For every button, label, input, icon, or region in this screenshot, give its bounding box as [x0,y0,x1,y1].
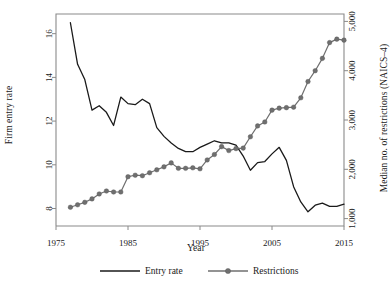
data-point-restrictions [147,170,152,175]
y-axis-right-tick-label: 2,000 [347,159,357,180]
data-point-restrictions [97,192,102,197]
data-point-restrictions [126,174,131,179]
line-restrictions [70,39,344,207]
y-axis-right-tick-label: 3,000 [347,109,357,130]
series-entry-rate [70,23,344,212]
legend-marker-restrictions [225,268,230,273]
data-point-restrictions [198,167,203,172]
data-point-restrictions [255,124,260,129]
data-point-restrictions [162,165,167,170]
data-point-restrictions [205,158,210,163]
data-point-restrictions [140,173,145,178]
legend-label-restrictions: Restrictions [253,266,299,276]
data-point-restrictions [227,148,232,153]
y-axis-right-tick-label: 5,000 [347,11,357,32]
data-point-restrictions [83,200,88,205]
x-axis-tick-label: 2005 [263,238,282,248]
x-axis-tick-label: 1975 [47,238,66,248]
y-axis-left-tick-label: 10 [44,160,54,170]
data-point-restrictions [241,146,246,151]
data-point-restrictions [313,68,318,73]
data-point-restrictions [327,40,332,45]
x-axis-tick-label: 1985 [119,238,138,248]
y-axis-left-tick-label: 8 [44,206,54,211]
data-point-restrictions [306,79,311,84]
data-point-restrictions [291,105,296,110]
data-point-restrictions [248,134,253,139]
data-point-restrictions [277,106,282,111]
data-point-restrictions [68,205,73,210]
data-point-restrictions [342,38,347,43]
plot-canvas: 810121416 1,0002,0003,0004,0005,000 1975… [0,0,392,286]
y-axis-left-tick-label: 16 [44,29,54,39]
data-point-restrictions [133,173,138,178]
x-axis-ticks: 19751985199520052015 [47,226,354,248]
data-point-restrictions [176,166,181,171]
chart-figure: Firm entry rate Median no. of restrictio… [0,0,392,286]
data-point-restrictions [169,161,174,166]
data-point-restrictions [320,56,325,61]
y-axis-right-tick-label: 1,000 [347,208,357,229]
series-restrictions [68,37,346,210]
data-point-restrictions [234,146,239,151]
chart-legend: Entry rateRestrictions [100,266,299,276]
x-axis-tick-label: 2015 [335,238,354,248]
data-point-restrictions [183,166,188,171]
data-point-restrictions [119,190,124,195]
data-point-restrictions [75,203,80,208]
data-point-restrictions [90,197,95,202]
line-entry-rate [70,23,344,212]
y-axis-left-tick-label: 12 [44,117,54,126]
legend-label-entry-rate: Entry rate [145,266,183,276]
data-point-restrictions [219,144,224,149]
data-point-restrictions [299,96,304,101]
data-point-restrictions [104,189,109,194]
y-axis-left-tick-label: 14 [44,72,54,82]
data-point-restrictions [270,108,275,113]
y-axis-left-ticks: 810121416 [44,29,56,211]
data-point-restrictions [155,168,160,173]
y-axis-right-ticks: 1,0002,0003,0004,0005,000 [344,11,357,229]
data-point-restrictions [284,105,289,110]
data-point-restrictions [191,166,196,171]
data-point-restrictions [111,190,116,195]
data-point-restrictions [212,152,217,157]
data-point-restrictions [335,37,340,42]
data-point-restrictions [263,120,268,125]
y-axis-right-tick-label: 4,000 [347,60,357,81]
x-axis-tick-label: 1995 [191,238,210,248]
